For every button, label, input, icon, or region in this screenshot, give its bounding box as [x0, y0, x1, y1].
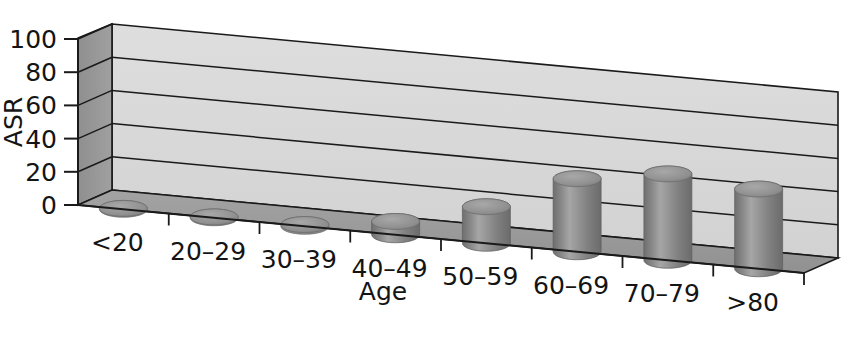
x-tick-label-5: 60–69	[533, 271, 609, 300]
y-axis-title: ASR	[0, 97, 28, 147]
bar-6069[interactable]	[553, 171, 601, 260]
y-tick-label-80: 80	[25, 58, 57, 87]
chart-container: 0 20 40 60 80 100 ASR <2020–2930–3940–49…	[0, 0, 865, 348]
x-tick-label-0: <20	[91, 228, 144, 257]
bar-top-cap	[462, 199, 510, 215]
bar-80[interactable]	[735, 181, 783, 277]
bar-top-cap	[372, 213, 420, 229]
y-tick-label-100: 100	[9, 25, 57, 54]
bar-4049[interactable]	[372, 213, 420, 242]
x-tick-label-2: 30–39	[261, 245, 337, 274]
bar-7079[interactable]	[644, 166, 692, 268]
bar-top-cap	[644, 166, 692, 182]
x-axis-title: Age	[359, 277, 407, 306]
y-tick-label-60: 60	[25, 91, 57, 120]
y-tick-label-0: 0	[41, 191, 57, 220]
x-tick-label-6: 70–79	[624, 279, 700, 308]
x-tick-label-4: 50–59	[442, 262, 518, 291]
y-tick-label-20: 20	[25, 158, 57, 187]
x-tick-label-1: 20–29	[170, 237, 246, 266]
asr-by-age-3d-bar-chart: 0 20 40 60 80 100 ASR <2020–2930–3940–49…	[0, 0, 865, 348]
x-tick-label-7: >80	[726, 288, 779, 317]
bar-top-cap	[735, 181, 783, 197]
y-tick-label-40: 40	[25, 125, 57, 154]
bar-top-cap	[553, 171, 601, 187]
left-wall	[78, 24, 112, 205]
